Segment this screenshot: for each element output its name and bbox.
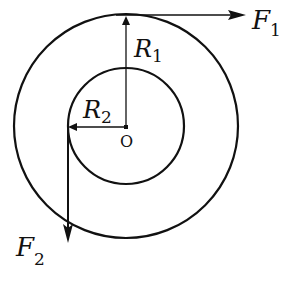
radius-r2-arrow (68, 123, 126, 131)
force-f1-arrow (116, 10, 246, 20)
f2-label: F2 (15, 232, 45, 269)
center-point (124, 125, 128, 129)
f1-label: F1 (251, 5, 281, 40)
r2-label: R2 (82, 96, 112, 127)
radius-r1-arrow (122, 16, 130, 126)
center-label: O (120, 132, 133, 151)
wheel-axle-diagram: F1 R1 R2 O F2 (0, 0, 287, 281)
r1-label: R1 (133, 35, 163, 66)
